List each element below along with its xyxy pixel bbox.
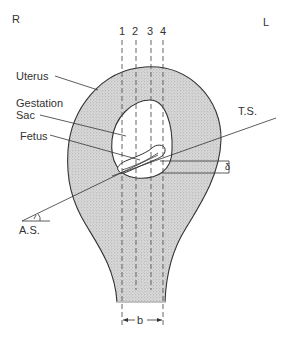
fetus-label: Fetus	[20, 130, 48, 142]
scan-line-2-label: 2	[132, 25, 138, 37]
uterus-leader	[55, 76, 98, 90]
axial-section-label: A.S.	[19, 224, 40, 236]
transverse-section-label: T.S.	[238, 105, 257, 117]
uterus-scan-diagram: 1 2 3 4 R L Uterus Gestation Sac Fetus T…	[0, 0, 285, 341]
gestation-sac-label-line2: Sac	[16, 109, 35, 121]
right-side-label: R	[12, 13, 20, 25]
left-side-label: L	[263, 16, 269, 28]
scan-line-3-label: 3	[147, 25, 153, 37]
scan-line-4-label: 4	[160, 25, 166, 37]
scan-line-1-label: 1	[119, 25, 125, 37]
arrowhead-right-icon	[157, 318, 162, 322]
arrowhead-left-icon	[123, 318, 128, 322]
angle-tick	[34, 215, 36, 219]
gestation-sac-label-line1: Gestation	[16, 97, 63, 109]
width-label: b	[137, 314, 143, 326]
angle-arc	[38, 214, 40, 221]
thickness-label: δ	[225, 162, 230, 172]
uterus-label: Uterus	[16, 70, 49, 82]
